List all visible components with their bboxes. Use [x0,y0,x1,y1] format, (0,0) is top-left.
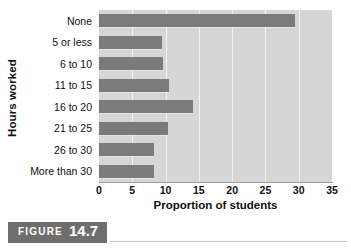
bar [99,57,163,70]
x-axis-tick-label: 0 [96,184,102,196]
category-label: 21 to 25 [20,118,96,140]
bar-row [99,118,332,140]
bar [99,122,168,135]
bar-row [99,139,332,161]
category-label: None [20,10,96,32]
bar-row [99,53,332,75]
x-axis-tick-label: 5 [129,184,135,196]
category-label: 26 to 30 [20,139,96,161]
category-label: 16 to 20 [20,96,96,118]
category-label: 6 to 10 [20,53,96,75]
x-axis-tick-label: 35 [326,184,338,196]
x-axis-tick-label: 25 [260,184,272,196]
x-axis-tick-label: 15 [193,184,205,196]
figure-caption-banner: FIGURE 14.7 [8,222,107,243]
bar-row [99,161,332,183]
figure-caption-word: FIGURE [18,226,63,237]
x-axis-tick-label: 10 [160,184,172,196]
category-axis-labels: None 5 or less 6 to 10 11 to 15 16 to 20… [20,10,96,182]
figure-caption-rule [110,241,347,242]
bar-row [99,10,332,32]
bar-row [99,96,332,118]
bar [99,79,169,92]
category-label: 11 to 15 [20,75,96,97]
bar [99,14,295,27]
bar-row [99,32,332,54]
figure-caption: FIGURE 14.7 [8,222,107,243]
category-label: 5 or less [20,32,96,54]
y-axis-title-label: Hours worked [6,59,18,137]
x-axis-title: Proportion of students [99,199,332,211]
x-axis-tick-label: 20 [226,184,238,196]
bar [99,36,162,49]
x-axis-line [99,182,333,183]
y-axis-title: Hours worked [2,0,22,195]
x-axis-tick-labels: 05101520253035 [99,184,332,200]
bar-series [99,10,332,182]
figure-caption-number: 14.7 [69,222,98,239]
bar [99,165,154,178]
plot-area [99,10,332,182]
bar [99,143,154,156]
bar [99,100,193,113]
category-label: More than 30 [20,161,96,183]
figure-container: Hours worked None 5 or less 6 to 10 11 t… [0,0,351,250]
bar-row [99,75,332,97]
x-axis-tick-label: 30 [293,184,305,196]
